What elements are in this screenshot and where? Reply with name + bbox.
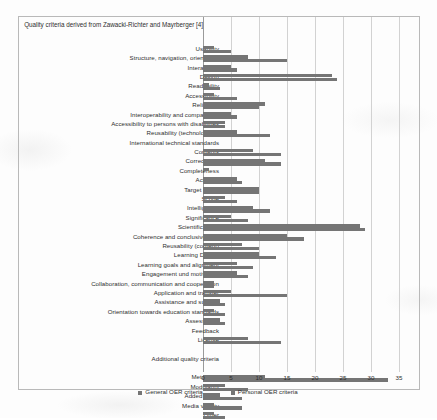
bar-rows: UsabilityStructure, navigation, orientat…: [22, 26, 400, 420]
bar-group: [203, 139, 399, 148]
legend-swatch: [138, 391, 142, 395]
category-label: Meta data: [0, 372, 219, 381]
legend-label: General OER criteria: [145, 388, 202, 395]
category-label: License: [0, 335, 219, 344]
category-label: Orientation towards education standards: [0, 307, 219, 316]
bar-group: [203, 298, 399, 307]
x-tick-label-25: 25: [340, 374, 347, 381]
category-label: Media variety: [0, 401, 219, 410]
bar-group: [203, 82, 399, 91]
bar-group: [203, 317, 399, 326]
category-label: Structure, navigation, orientation: [0, 53, 219, 62]
bar-group: [203, 101, 399, 110]
x-tick-label-35: 35: [396, 374, 403, 381]
bar-row: License: [22, 336, 400, 345]
bar-group: [203, 308, 399, 317]
category-label: Scientific basis: [0, 222, 219, 231]
category-label: International technical standards: [0, 138, 219, 147]
category-label: Feedback: [0, 326, 219, 335]
section-header-row: Additional quality criteria: [22, 355, 400, 364]
category-label: Reusability (content): [0, 241, 219, 250]
bar-group: [203, 242, 399, 251]
category-label: Reusability (technological): [0, 128, 219, 137]
legend-item[interactable]: Personal OER criteria: [231, 388, 298, 395]
legend-item[interactable]: General OER criteria: [138, 388, 202, 395]
category-label: Design: [0, 72, 219, 81]
category-label: Accessibility to persons with disabiliti…: [0, 119, 219, 128]
bar-group: [203, 54, 399, 63]
x-tick-label-30: 30: [368, 374, 375, 381]
bar-group: [203, 327, 399, 336]
category-label: Target group: [0, 185, 219, 194]
bar-group: [203, 129, 399, 138]
category-label: Contents: [0, 147, 219, 156]
x-tick-label-20: 20: [312, 374, 319, 381]
bar-general: [203, 168, 209, 171]
bar-group: [203, 176, 399, 185]
category-label: Learning Design: [0, 250, 219, 259]
bar-group: [203, 120, 399, 129]
category-label: Significance: [0, 213, 219, 222]
category-label: Reliability: [0, 100, 219, 109]
bar-group: [203, 270, 399, 279]
category-label: Intelligibility: [0, 203, 219, 212]
bar-group: [203, 73, 399, 82]
bar-group: [203, 233, 399, 242]
bar-group: [203, 411, 399, 420]
bar-group: [203, 195, 399, 204]
bar-personal: [203, 416, 225, 419]
x-tick-label-5: 5: [229, 374, 232, 381]
bar-personal: [203, 228, 365, 231]
bar-group: [203, 214, 399, 223]
category-label: Assistance and support: [0, 297, 219, 306]
title-spacer-row: [22, 26, 400, 35]
chart-legend: General OER criteriaPersonal OER criteri…: [18, 388, 418, 395]
category-label: Assessment: [0, 316, 219, 325]
bar-group: [203, 280, 399, 289]
legend-label: Personal OER criteria: [238, 388, 298, 395]
category-label: Actuality: [0, 175, 219, 184]
category-label: Accessibility: [0, 91, 219, 100]
category-label: Engagement und motivation: [0, 269, 219, 278]
category-label: Interactivity: [0, 63, 219, 72]
bar-group: [203, 148, 399, 157]
bar-personal: [203, 341, 281, 344]
bar-personal: [203, 78, 337, 81]
section-header-label: Additional quality criteria: [0, 354, 219, 363]
bar-group: [203, 289, 399, 298]
bar-group: [203, 167, 399, 176]
x-tick-label-10: 10: [256, 374, 263, 381]
legend-swatch: [231, 391, 235, 395]
bar-group: [203, 223, 399, 232]
bar-group: [203, 402, 399, 411]
bar-group: [203, 92, 399, 101]
bar-group: [203, 64, 399, 73]
category-label: Application and transfer: [0, 288, 219, 297]
category-label: Scope: [0, 194, 219, 203]
category-label: Completeness: [0, 166, 219, 175]
bar-group: [203, 111, 399, 120]
x-tick-label-0: 0: [201, 374, 204, 381]
bar-group: [203, 261, 399, 270]
bar-group: [203, 336, 399, 345]
category-label: Interoperability and compatibility: [0, 110, 219, 119]
bar-group: [203, 157, 399, 166]
category-label: Coherence and conclusiveness: [0, 232, 219, 241]
bar-group: [203, 45, 399, 54]
bar-group: [203, 186, 399, 195]
category-label: Correctness: [0, 156, 219, 165]
category-label: Readability: [0, 81, 219, 90]
x-axis: 05101520253035: [203, 372, 399, 386]
category-label: Usability: [0, 44, 219, 53]
bar-group: [203, 251, 399, 260]
bar-row: Other: [22, 411, 400, 420]
x-tick-label-15: 15: [284, 374, 291, 381]
bar-group: [203, 204, 399, 213]
category-label: Collaboration, communication and coopera…: [0, 279, 219, 288]
category-label: Other: [0, 410, 219, 419]
category-label: Learning goals and alignment: [0, 260, 219, 269]
